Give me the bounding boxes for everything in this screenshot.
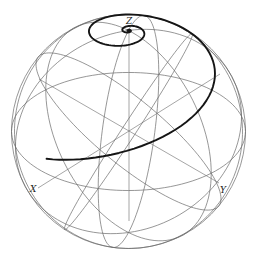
y-axis-label: Y <box>220 185 227 195</box>
sphere-loxodrome-figure: Z X Y <box>0 0 257 260</box>
z-axis-label: Z <box>125 16 133 26</box>
background <box>0 0 257 260</box>
x-axis-label: X <box>29 184 37 194</box>
